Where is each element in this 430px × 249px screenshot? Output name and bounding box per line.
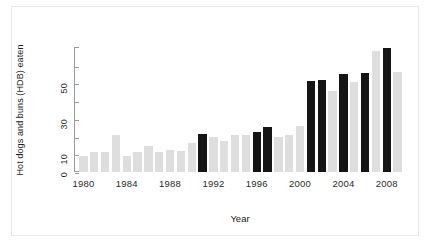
bar [339, 74, 347, 172]
x-axis-tick-label: 1980 [72, 178, 94, 189]
bar [263, 127, 271, 172]
bar [188, 143, 196, 172]
x-axis-labels: 19801984198819921996200020042008 [78, 178, 403, 194]
bar [328, 91, 336, 172]
bar [133, 152, 141, 172]
x-axis-tick-label: 1984 [116, 178, 138, 189]
bar [350, 82, 358, 172]
y-axis-tick-label: 50 [59, 83, 69, 93]
bar [307, 81, 315, 172]
x-axis-title: Year [230, 213, 249, 224]
y-axis-labels: 0103050 [0, 0, 74, 249]
bar [361, 73, 369, 172]
bar [231, 135, 239, 172]
bar [101, 152, 109, 172]
bar [383, 48, 391, 172]
bar [144, 146, 152, 172]
x-axis-tick-label: 2008 [376, 178, 398, 189]
bar [220, 141, 228, 172]
y-axis-tick [75, 173, 79, 174]
bar [242, 135, 250, 172]
bar [123, 156, 131, 172]
x-axis-tick-label: 2004 [332, 178, 354, 189]
bar [372, 51, 380, 172]
bar [198, 134, 206, 172]
bar [393, 72, 401, 172]
bar [79, 156, 87, 172]
bar [209, 137, 217, 172]
bar [285, 135, 293, 172]
x-axis-tick-label: 2000 [289, 178, 311, 189]
y-axis-tick-label: 0 [59, 172, 69, 177]
bar [274, 137, 282, 172]
bar [296, 126, 304, 172]
bar [112, 135, 120, 172]
x-axis-tick-label: 1992 [202, 178, 224, 189]
y-axis-tick-label: 10 [59, 154, 69, 164]
bar [253, 132, 261, 172]
bar [177, 151, 185, 172]
bar [166, 150, 174, 172]
bar [155, 152, 163, 172]
bar [90, 152, 98, 172]
x-axis-tick-label: 1988 [159, 178, 181, 189]
x-axis-tick-label: 1996 [246, 178, 268, 189]
bar [318, 80, 326, 172]
y-axis-tick-label: 30 [59, 119, 69, 129]
plot-area [78, 44, 403, 172]
chart-figure: Hot dogs and buns (HDB) eaten 0103050 19… [0, 0, 430, 249]
bar-group [78, 44, 403, 172]
